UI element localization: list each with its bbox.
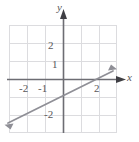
x-tick-label-neg2: -2 bbox=[19, 83, 28, 94]
y-tick-label-2: 2 bbox=[48, 40, 54, 51]
y-axis bbox=[60, 9, 67, 133]
x-axis-label: x bbox=[127, 72, 132, 83]
x-tick-label-neg1: -1 bbox=[38, 83, 47, 94]
coordinate-graph-figure: 2 1 -2 -2 -1 2 y x bbox=[0, 0, 139, 142]
x-tick-label-2: 2 bbox=[94, 83, 100, 94]
y-tick-label-neg2: -2 bbox=[44, 109, 53, 120]
y-axis-label: y bbox=[57, 2, 62, 13]
y-tick-label-1: 1 bbox=[52, 59, 58, 70]
graph-canvas bbox=[0, 0, 139, 142]
